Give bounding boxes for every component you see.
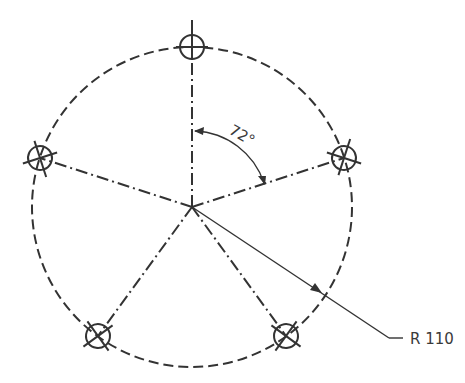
hole-right: [321, 133, 367, 180]
center-lines: [40, 47, 344, 336]
radius-dimension: R 110: [192, 207, 454, 348]
hole-bottom-right: [261, 311, 311, 361]
arrowhead-icon: [310, 283, 322, 293]
angle-dimension: 72°: [194, 121, 266, 185]
radius-label: R 110: [410, 330, 454, 348]
hole-bottom-left: [73, 311, 123, 361]
hole-top: [176, 20, 208, 60]
arrowhead-icon: [194, 127, 204, 135]
bolt-circle-drawing: 72° R 110: [0, 0, 465, 383]
angle-label: 72°: [226, 121, 258, 150]
hole-left: [17, 135, 63, 182]
